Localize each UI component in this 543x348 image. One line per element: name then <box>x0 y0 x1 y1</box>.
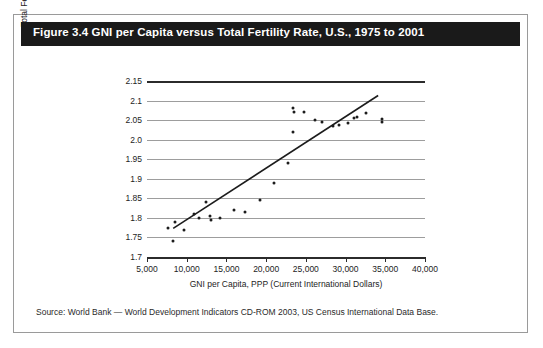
y-axis-tick-label: 2.0 <box>130 135 142 145</box>
y-axis-tick-label: 1.75 <box>125 232 142 242</box>
x-axis-title: GNI per Capita, PPP (Current Internation… <box>147 279 425 289</box>
x-axis-tick-label: 5,000 <box>136 264 157 274</box>
x-axis-tick <box>346 257 347 262</box>
x-axis-tick <box>226 257 227 262</box>
x-axis-tick-label: 20,000 <box>253 264 279 274</box>
x-axis-tick-label: 40,000 <box>412 264 438 274</box>
chart-area: Total Fertility Rate GNI per Capita, PPP… <box>21 51 520 298</box>
x-axis-tick-label: 30,000 <box>333 264 359 274</box>
figure-frame: Figure 3.4 GNI per Capita versus Total F… <box>13 14 528 333</box>
figure-title-bar: Figure 3.4 GNI per Capita versus Total F… <box>21 22 520 46</box>
y-axis-tick-label: 1.9 <box>130 174 142 184</box>
x-axis-tick <box>385 257 386 262</box>
x-axis-tick <box>266 257 267 262</box>
x-axis-tick-label: 10,000 <box>174 264 200 274</box>
y-axis-tick-label: 1.85 <box>125 193 142 203</box>
y-axis-tick-label: 2.1 <box>130 96 142 106</box>
x-axis-tick <box>306 257 307 262</box>
y-axis-tick-label: 2.15 <box>125 76 142 86</box>
y-axis-tick-label: 2.05 <box>125 115 142 125</box>
trend-line <box>147 81 425 257</box>
plot-region: 1.71.751.81.851.91.952.02.052.12.15 <box>147 81 425 257</box>
y-axis-tick-label: 1.7 <box>130 252 142 262</box>
x-axis-tick-label: 35,000 <box>372 264 398 274</box>
x-axis-tick-label: 25,000 <box>293 264 319 274</box>
y-axis-tick-label: 1.95 <box>125 154 142 164</box>
x-axis-tick <box>187 257 188 262</box>
figure-title: Figure 3.4 GNI per Capita versus Total F… <box>33 26 424 38</box>
x-axis-tick-label: 15,000 <box>213 264 239 274</box>
y-axis-title: Total Fertility Rate <box>19 0 29 81</box>
source-note: Source: World Bank — World Development I… <box>36 307 438 317</box>
x-axis-line <box>147 257 425 259</box>
x-axis-tick <box>425 257 426 262</box>
y-axis-tick-label: 1.8 <box>130 213 142 223</box>
x-axis-tick <box>147 257 148 262</box>
